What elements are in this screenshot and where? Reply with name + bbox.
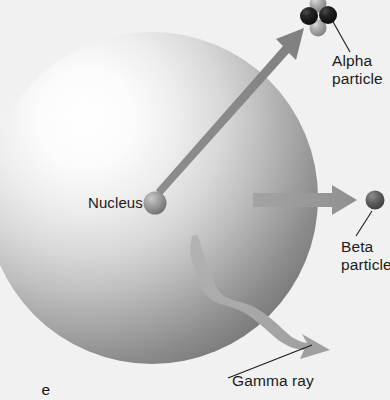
alpha-proton-left — [300, 7, 318, 25]
radioactive-decay-figure: Alphaparticle Betaparticle Gamma ray Nuc… — [0, 0, 390, 400]
beta-leader-line — [356, 211, 372, 236]
alpha-particle-cluster — [300, 0, 337, 37]
caption-line-1: e — [0, 379, 50, 400]
alpha-particle-label-line1: Alpha — [332, 52, 372, 69]
alpha-proton-right — [319, 6, 337, 24]
beta-particle-label-line2: particle — [341, 256, 390, 273]
alpha-particle-label: Alphaparticle — [332, 52, 383, 88]
beta-particle-label: Betaparticle — [341, 238, 390, 274]
beta-particle-label-line1: Beta — [341, 238, 373, 255]
caption-text: e es too and this — [0, 337, 50, 400]
nucleus-sphere — [144, 192, 167, 215]
beta-particle-sphere — [366, 191, 385, 210]
alpha-particle-label-line2: particle — [332, 70, 383, 87]
alpha-leader-line — [332, 20, 350, 52]
gamma-ray-label: Gamma ray — [232, 372, 314, 390]
nucleus-label: Nucleus — [88, 194, 143, 212]
